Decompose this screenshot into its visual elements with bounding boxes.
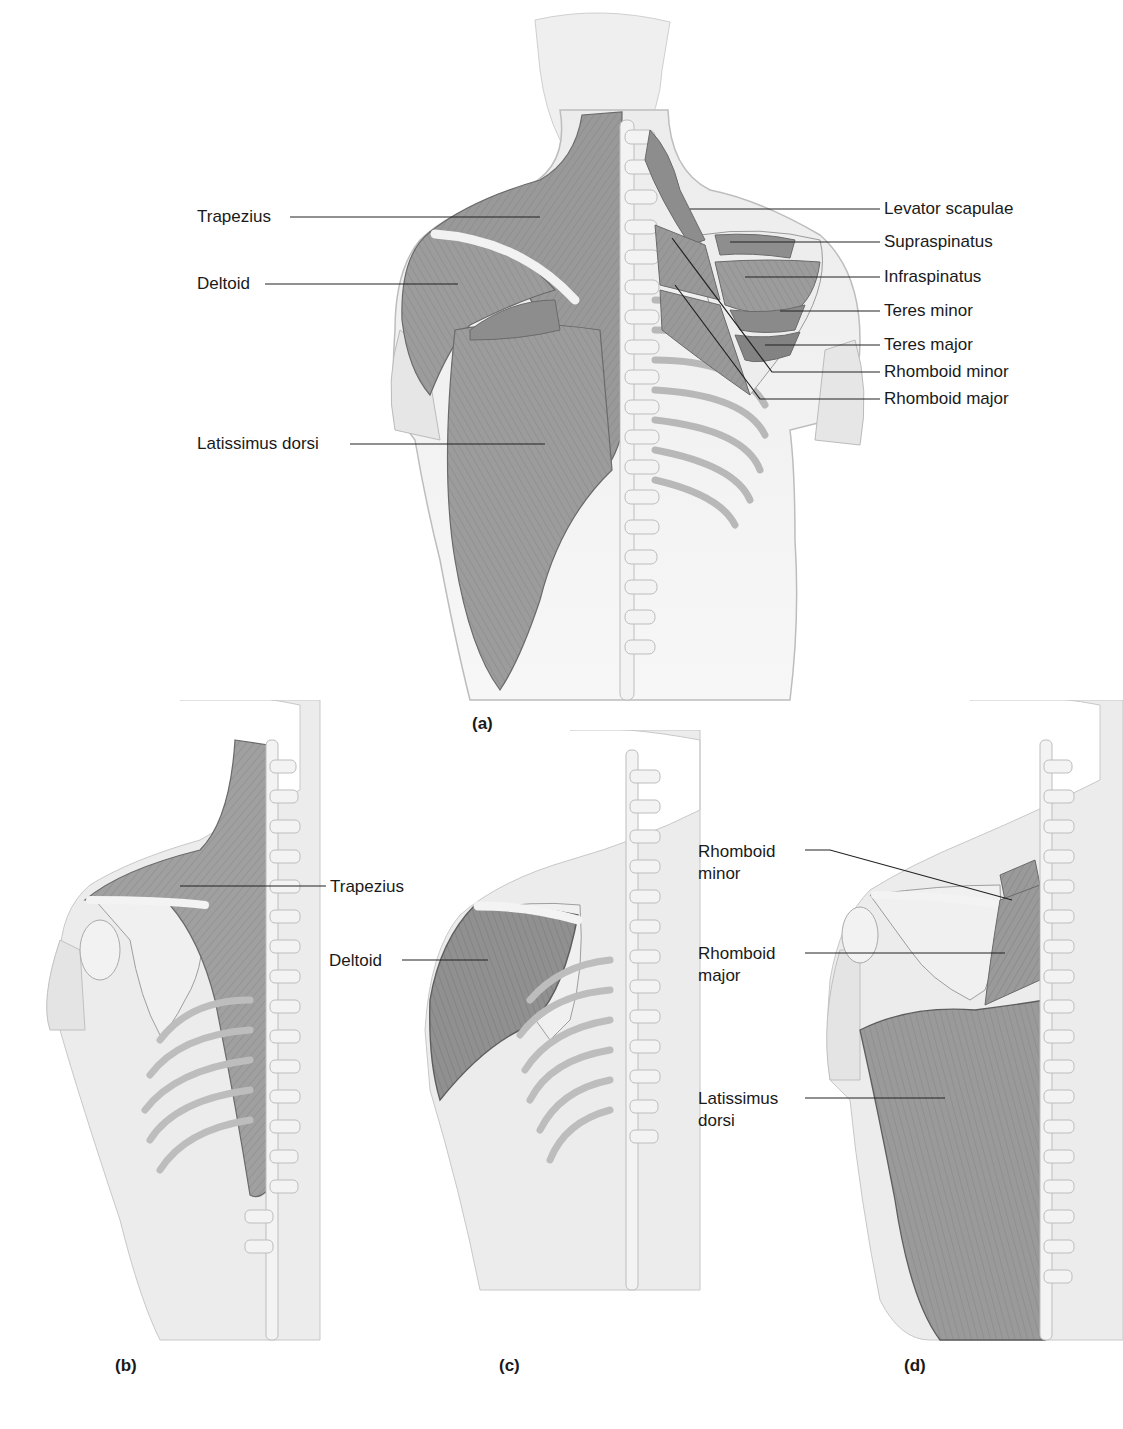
caption-d: (d) [904,1356,926,1376]
panel-d: Rhomboid minor Rhomboid major Latissimus… [800,700,1123,1429]
label-rhomboid-major-a: Rhomboid major [884,389,1009,409]
label-rhomboid-major-d: Rhomboid major [698,943,776,987]
panel-c: Deltoid (c) [400,730,730,1429]
label-latissimus-dorsi-a: Latissimus dorsi [197,434,319,454]
trapezius-illustration-b [0,700,380,1429]
label-deltoid-a: Deltoid [197,274,250,294]
label-rhomboid-major-d-line2: major [698,965,776,987]
label-rhomboid-minor-d-line1: Rhomboid [698,841,776,863]
label-rhomboid-minor-d: Rhomboid minor [698,841,776,885]
label-trapezius-b: Trapezius [330,877,404,897]
label-rhomboid-major-d-line1: Rhomboid [698,943,776,965]
caption-c: (c) [499,1356,520,1376]
label-teres-minor: Teres minor [884,301,973,321]
label-latissimus-dorsi-d-line2: dorsi [698,1110,778,1132]
label-infraspinatus: Infraspinatus [884,267,981,287]
deltoid-illustration-c [400,730,730,1429]
label-supraspinatus: Supraspinatus [884,232,993,252]
caption-b: (b) [115,1356,137,1376]
label-rhomboid-minor-d-line2: minor [698,863,776,885]
label-latissimus-dorsi-d-line1: Latissimus [698,1088,778,1110]
label-teres-major: Teres major [884,335,973,355]
panel-a: Trapezius Deltoid Latissimus dorsi Levat… [0,0,1123,740]
rhomboids-latissimus-illustration-d [800,700,1123,1429]
label-trapezius-a: Trapezius [197,207,271,227]
label-deltoid-c: Deltoid [329,951,382,971]
panel-b: Trapezius (b) [0,700,380,1429]
label-levator-scapulae: Levator scapulae [884,199,1013,219]
label-latissimus-dorsi-d: Latissimus dorsi [698,1088,778,1132]
label-rhomboid-minor-a: Rhomboid minor [884,362,1009,382]
